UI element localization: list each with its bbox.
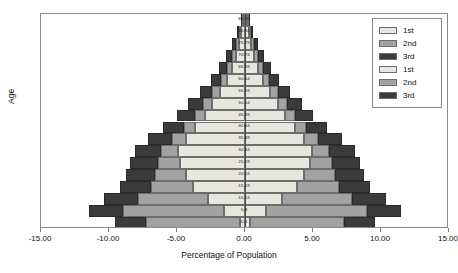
bar-segment-left-3rd — [104, 193, 137, 205]
bar-segment-right-1st — [245, 169, 304, 181]
bar-segment-right-2nd — [285, 110, 295, 122]
bar-segment-right-2nd — [304, 133, 318, 145]
bar-segment-left-1st — [186, 133, 245, 145]
bar-segment-left-1st — [180, 157, 245, 169]
bar-segment-right-2nd — [295, 122, 307, 134]
bar-segment-right-3rd — [258, 50, 264, 62]
age-band-label: 70-74 — [238, 53, 250, 57]
age-band-label: 60-64 — [238, 76, 250, 80]
x-axis-tick — [108, 228, 109, 232]
x-axis-tick-label: -15.00 — [29, 234, 52, 243]
age-band-label: 5-9 — [241, 208, 248, 212]
bar-segment-right-1st — [245, 205, 266, 217]
age-band-label: 55-59 — [238, 88, 250, 92]
x-axis-tick — [40, 228, 41, 232]
bar-segment-right-2nd — [254, 50, 258, 62]
legend-swatch — [379, 53, 397, 60]
legend-item: 1st — [379, 24, 436, 37]
bar-segment-right-3rd — [269, 74, 279, 86]
legend-label: 3rd — [403, 92, 415, 100]
bar-segment-left-2nd — [212, 86, 219, 98]
age-band-label: 40-44 — [238, 124, 250, 128]
bar-segment-right-2nd — [270, 86, 277, 98]
legend-label: 2nd — [403, 40, 416, 48]
bar-segment-right-3rd — [352, 193, 385, 205]
bar-segment-right-3rd — [335, 169, 364, 181]
bar-segment-right-2nd — [278, 98, 287, 110]
bar-segment-left-3rd — [135, 145, 161, 157]
bar-segment-right-2nd — [266, 205, 367, 217]
bar-segment-right-2nd — [310, 157, 332, 169]
age-band-label: 80-84 — [238, 29, 250, 33]
legend-swatch — [379, 27, 397, 34]
bar-segment-left-2nd — [155, 169, 186, 181]
chart-legend: 1st2nd3rd1st2nd3rd — [372, 18, 442, 108]
bar-segment-left-2nd — [151, 181, 192, 193]
bar-segment-right-2nd — [282, 193, 352, 205]
legend-label: 2nd — [403, 79, 416, 87]
bar-segment-left-1st — [186, 169, 245, 181]
bar-segment-right-2nd — [250, 217, 345, 228]
bar-segment-right-3rd — [254, 38, 258, 50]
bar-segment-right-1st — [245, 193, 282, 205]
age-band-label: 65-69 — [238, 65, 250, 69]
bar-segment-right-3rd — [263, 62, 271, 74]
age-band-label: 35-39 — [238, 136, 250, 140]
bar-segment-right-2nd — [258, 62, 263, 74]
bar-segment-right-2nd — [297, 181, 338, 193]
age-band-label: 75-79 — [238, 41, 250, 45]
age-band-label: 85-90 — [238, 17, 250, 21]
bar-segment-right-3rd — [344, 217, 375, 228]
bar-segment-left-3rd — [163, 122, 183, 134]
age-band-label: 50-54 — [238, 100, 250, 104]
bar-segment-left-3rd — [89, 205, 123, 217]
bar-segment-right-3rd — [339, 181, 370, 193]
legend-label: 3rd — [403, 53, 415, 61]
x-axis-tick-label: 10.00 — [370, 234, 390, 243]
bar-segment-right-3rd — [332, 157, 360, 169]
bar-segment-right-2nd — [312, 145, 329, 157]
legend-item: 3rd — [379, 89, 436, 102]
age-band-label: 15-19 — [238, 184, 250, 188]
x-axis-title: Percentage of Population — [0, 250, 458, 260]
x-axis-tick-label: -10.00 — [97, 234, 120, 243]
bar-segment-right-3rd — [367, 205, 401, 217]
legend-label: 1st — [403, 27, 414, 35]
legend-item: 2nd — [379, 76, 436, 89]
bar-segment-left-3rd — [115, 217, 146, 228]
bar-segment-left-2nd — [161, 145, 178, 157]
y-axis-title: Age — [6, 89, 16, 104]
age-band-label: 10-14 — [238, 196, 250, 200]
x-axis-tick — [448, 228, 449, 232]
legend-item: 3rd — [379, 50, 436, 63]
age-band-label: 30-34 — [238, 148, 250, 152]
bar-segment-right-3rd — [318, 133, 341, 145]
bar-segment-left-2nd — [172, 133, 186, 145]
bar-segment-left-2nd — [146, 217, 241, 228]
bar-segment-left-3rd — [219, 62, 227, 74]
bar-segment-left-2nd — [184, 122, 196, 134]
bar-segment-left-2nd — [138, 193, 208, 205]
bar-segment-right-3rd — [306, 122, 326, 134]
bar-segment-left-3rd — [177, 110, 195, 122]
legend-swatch — [379, 40, 397, 47]
age-band-label: 20-24 — [238, 172, 250, 176]
age-band-label: 0-4 — [241, 220, 248, 224]
bar-segment-right-1st — [245, 157, 310, 169]
x-axis-tick — [312, 228, 313, 232]
legend-swatch — [379, 92, 397, 99]
bar-segment-left-2nd — [195, 110, 205, 122]
bar-segment-right-3rd — [251, 26, 253, 38]
x-axis-tick-label: 5.00 — [304, 234, 320, 243]
bar-segment-right-2nd — [251, 38, 254, 50]
bar-segment-left-3rd — [200, 86, 212, 98]
legend-label: 1st — [403, 66, 414, 74]
population-pyramid-chart: Age 0-45-910-1415-1920-2425-2930-3435-39… — [0, 0, 458, 273]
age-band-label: 45-49 — [238, 112, 250, 116]
bar-segment-right-2nd — [304, 169, 335, 181]
legend-swatch — [379, 66, 397, 73]
bar-segment-left-2nd — [203, 98, 212, 110]
x-axis-tick — [244, 228, 245, 232]
bar-segment-right-3rd — [287, 98, 302, 110]
legend-swatch — [379, 79, 397, 86]
